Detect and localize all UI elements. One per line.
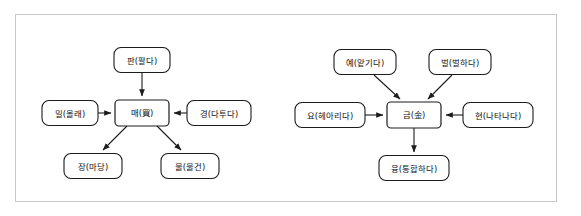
node-beol[interactable]: 벌(벌하다) [429, 50, 491, 75]
edge-mae-to-jang [103, 126, 127, 150]
edge-beol-to-geum [428, 75, 452, 99]
edge-mae-to-mul [157, 126, 181, 150]
node-mul-label: 물(물건) [175, 162, 206, 172]
node-yung-label: 융(통합하다) [391, 164, 438, 174]
node-hyeon-label: 현(나타나다) [475, 111, 522, 121]
node-jang-label: 장(마당) [78, 162, 109, 172]
node-jang[interactable]: 장(마당) [64, 154, 122, 179]
node-geum-center[interactable]: 금(金) [387, 102, 441, 128]
node-ye-label: 예(맡기다) [346, 58, 385, 68]
node-mil[interactable]: 밀(몰래) [42, 101, 98, 126]
node-geum-label: 금(金) [403, 110, 426, 120]
node-hyeon[interactable]: 현(나타나다) [463, 103, 533, 128]
edge-ye-to-geum [374, 75, 400, 99]
node-ye[interactable]: 예(맡기다) [334, 50, 396, 75]
node-mae-label: 매(買) [131, 108, 154, 118]
node-mil-label: 밀(몰래) [55, 109, 86, 119]
node-beol-label: 벌(벌하다) [441, 58, 480, 68]
node-yung[interactable]: 융(통합하다) [379, 156, 449, 181]
node-pan-label: 판(팔다) [127, 56, 158, 66]
node-pan[interactable]: 판(팔다) [114, 48, 170, 73]
node-gyeong[interactable]: 경(다투다) [187, 101, 251, 126]
node-yo[interactable]: 요(헤아리다) [295, 103, 365, 128]
node-yo-label: 요(헤아리다) [307, 111, 354, 121]
figure-page: 판(팔다) 밀(몰래) 경(다투다) 장(마당) 물(물건) 매(買) [0, 0, 581, 216]
node-gyeong-label: 경(다투다) [200, 109, 239, 119]
word-network-diagram: 판(팔다) 밀(몰래) 경(다투다) 장(마당) 물(물건) 매(買) [0, 0, 581, 216]
node-mae-center[interactable]: 매(買) [115, 100, 169, 126]
node-mul[interactable]: 물(물건) [161, 154, 219, 179]
